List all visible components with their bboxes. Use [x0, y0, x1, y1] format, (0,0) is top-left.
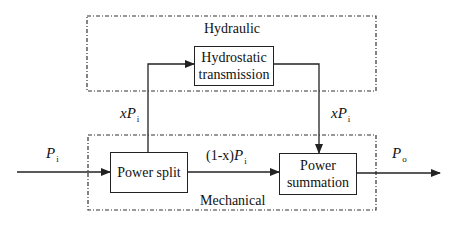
output-power-label: Po [392, 146, 406, 161]
hydrostatic-transmission-block: Hydrostatic transmission [194, 46, 274, 86]
power-summation-block: Power summation [279, 153, 357, 195]
hydraulic-branch-out-arrow [274, 64, 319, 153]
hydraulic-label: Hydraulic [204, 22, 260, 36]
hyd-out-symbol: P [338, 105, 347, 121]
hydraulic-in-power-label: xPi [120, 106, 138, 121]
hyd-in-symbol: P [127, 105, 136, 121]
input-power-label: Pi [46, 146, 58, 161]
hydraulic-out-power-label: xPi [331, 106, 349, 121]
hydrostatic-line2: transmission [199, 66, 270, 83]
power-summation-line2: summation [287, 174, 349, 191]
mech-prefix: (1-x) [206, 148, 234, 163]
mech-sub: i [244, 156, 247, 166]
output-symbol: P [392, 145, 401, 161]
hyd-in-sub: i [137, 114, 140, 124]
mechanical-label: Mechanical [200, 194, 265, 208]
power-split-label: Power split [117, 164, 180, 181]
hyd-out-sub: i [348, 114, 351, 124]
hydraulic-branch-in-arrow [148, 64, 194, 152]
output-sub: o [402, 154, 407, 164]
mechanical-power-label: (1-x)Pi [206, 148, 246, 163]
hyd-out-prefix: x [331, 105, 338, 121]
input-sub: i [56, 154, 59, 164]
mech-symbol: P [234, 147, 243, 163]
hyd-in-prefix: x [120, 105, 127, 121]
hydrostatic-line1: Hydrostatic [201, 49, 266, 66]
power-split-block: Power split [110, 152, 188, 193]
power-summation-line1: Power [300, 157, 336, 174]
input-symbol: P [46, 145, 55, 161]
